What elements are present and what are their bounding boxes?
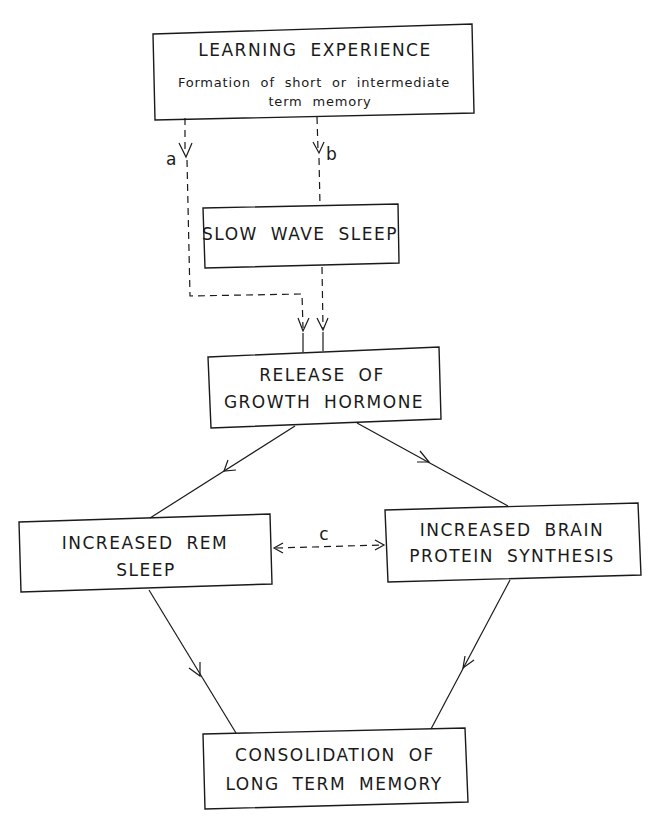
edge-line: [357, 423, 508, 506]
node-release-growth-hormone: RELEASE OF GROWTH HORMONE: [208, 347, 441, 428]
node-line-1: CONSOLIDATION OF: [235, 745, 435, 765]
node-title: LEARNING EXPERIENCE: [198, 40, 431, 60]
node-increased-rem-sleep: INCREASED REM SLEEP: [19, 514, 272, 592]
edge-protein-to-consolidation: [431, 580, 510, 729]
node-line-2: GROWTH HORMONE: [224, 392, 424, 412]
flow-diagram: LEARNING EXPERIENCE Formation of short o…: [0, 0, 652, 832]
node-box: [203, 728, 468, 809]
node-line-1: SLOW WAVE SLEEP: [202, 224, 398, 244]
edge-line: [317, 117, 318, 150]
edge-label-c: c: [319, 524, 328, 544]
node-box: [208, 347, 441, 428]
node-consolidation-long-term-memory: CONSOLIDATION OF LONG TERM MEMORY: [203, 728, 468, 809]
edge-line: [431, 580, 510, 729]
edge-line: [276, 545, 382, 548]
edge-gh-to-rem: [150, 426, 295, 518]
edge-line: [149, 590, 236, 733]
node-subtitle-line-2: term memory: [268, 94, 371, 109]
node-box: [19, 514, 272, 592]
edge-line: [150, 426, 295, 518]
edge-line: [319, 158, 320, 206]
node-learning-experience: LEARNING EXPERIENCE Formation of short o…: [153, 24, 474, 120]
node-slow-wave-sleep: SLOW WAVE SLEEP: [202, 204, 399, 268]
arrowhead-icon: [298, 318, 309, 331]
edge-label-b: b: [326, 144, 337, 164]
edge-rem-to-consolidation: [149, 590, 236, 733]
node-line-2: LONG TERM MEMORY: [225, 774, 442, 794]
edge-label-a: a: [166, 149, 176, 169]
node-subtitle-line-1: Formation of short or intermediate: [178, 75, 450, 90]
edge-gh-to-protein: [357, 423, 508, 506]
edge-line: [322, 267, 323, 328]
node-increased-brain-protein-synthesis: INCREASED BRAIN PROTEIN SYNTHESIS: [385, 503, 641, 582]
edge-sws-to-growth-hormone: [317, 267, 328, 351]
node-line-2: PROTEIN SYNTHESIS: [409, 546, 615, 566]
node-line-1: INCREASED REM: [62, 533, 229, 553]
edge-c: c: [274, 524, 384, 553]
node-line-2: SLEEP: [116, 560, 176, 580]
edge-b: b: [313, 117, 337, 206]
node-line-1: INCREASED BRAIN: [420, 520, 604, 540]
node-box: [385, 503, 641, 582]
node-line-1: RELEASE OF: [259, 365, 385, 385]
